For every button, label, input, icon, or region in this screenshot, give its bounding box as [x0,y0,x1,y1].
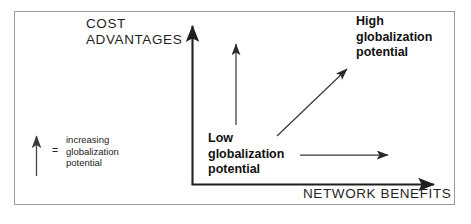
low-callout-line1: Low [208,131,284,147]
legend-line1: increasing [66,134,119,146]
legend-line2: globalization [66,146,119,158]
y-axis-label: COST ADVANTAGES [86,16,182,48]
low-callout-line2: globalization [208,147,284,163]
low-globalization-callout: Low globalization potential [208,131,284,178]
high-callout-line3: potential [356,45,432,61]
high-globalization-diagonal-arrow [277,69,347,136]
y-axis-label-line1: COST [86,16,182,32]
y-axis-label-line2: ADVANTAGES [86,32,182,48]
legend-equals-sign: = [52,144,58,156]
high-callout-line1: High [356,14,432,30]
legend-line3: potential [66,157,119,169]
legend-text: increasing globalization potential [66,134,119,169]
globalization-potential-figure: COST ADVANTAGES NETWORK BENEFITS Low glo… [0,0,471,224]
high-globalization-callout: High globalization potential [356,14,432,61]
high-callout-line2: globalization [356,30,432,46]
low-callout-line3: potential [208,162,284,178]
x-axis-label: NETWORK BENEFITS [303,186,451,202]
